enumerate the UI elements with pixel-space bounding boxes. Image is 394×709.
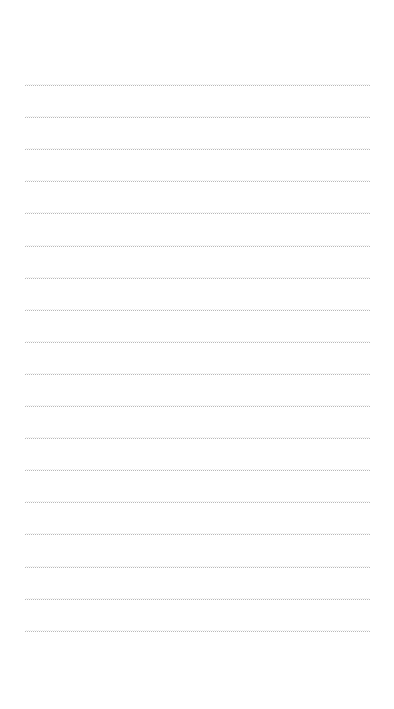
note-page <box>0 0 394 709</box>
note-text-area[interactable] <box>25 60 370 640</box>
